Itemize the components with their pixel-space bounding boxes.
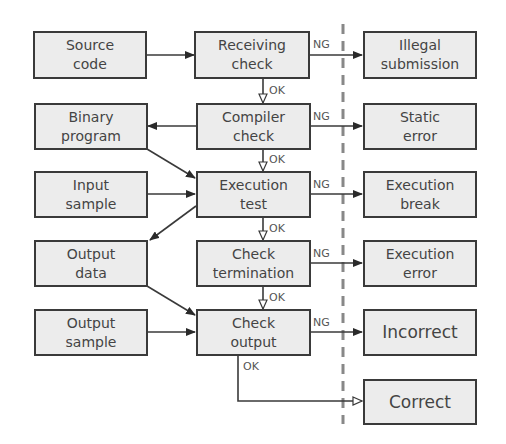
box-label: code (73, 55, 107, 74)
flow-diagram: Source code Binary program Input sample … (0, 0, 506, 444)
box-label: Illegal (399, 36, 441, 55)
ng-label: NG (313, 179, 330, 191)
edge-binary-to-execution (147, 149, 195, 178)
box-label: Check (232, 314, 275, 333)
box-label: Execution (386, 176, 455, 195)
edge-execution-to-output-data (150, 206, 196, 240)
box-label: data (75, 264, 107, 283)
box-execution-error: Execution error (363, 240, 477, 287)
box-check-output: Check output (196, 309, 311, 356)
box-label: error (403, 127, 437, 146)
box-label: Incorrect (382, 323, 457, 342)
box-label: Output (67, 245, 116, 264)
box-label: Input (73, 176, 109, 195)
box-check-termination: Check termination (196, 240, 311, 287)
box-label: error (403, 264, 437, 283)
box-label: sample (66, 333, 117, 352)
box-label: sample (66, 195, 117, 214)
box-label: output (230, 333, 276, 352)
box-correct: Correct (363, 379, 477, 425)
box-illegal-submission: Illegal submission (363, 31, 477, 79)
ok-label: OK (269, 85, 285, 97)
box-label: Compiler (222, 108, 285, 127)
ng-label: NG (313, 317, 330, 329)
ok-label: OK (269, 223, 285, 235)
box-label: Static (400, 108, 440, 127)
box-binary-program: Binary program (34, 103, 148, 150)
ng-label: NG (313, 39, 330, 51)
box-incorrect: Incorrect (363, 309, 477, 356)
box-label: Correct (389, 393, 451, 412)
edge-output-data-to-check-output (147, 286, 195, 315)
box-label: test (240, 195, 267, 214)
box-label: Binary (69, 108, 114, 127)
box-label: termination (213, 264, 294, 283)
ok-label: OK (269, 292, 285, 304)
box-source-code: Source code (33, 31, 147, 79)
box-execution-test: Execution test (196, 171, 311, 218)
box-label: submission (381, 55, 460, 74)
box-label: Receiving (218, 36, 286, 55)
box-label: check (233, 127, 274, 146)
box-output-data: Output data (34, 240, 148, 287)
ng-label: NG (313, 111, 330, 123)
box-label: Execution (219, 176, 288, 195)
box-input-sample: Input sample (34, 171, 148, 218)
box-label: Execution (386, 245, 455, 264)
ok-label: OK (243, 361, 259, 373)
box-execution-break: Execution break (363, 171, 477, 218)
box-label: program (61, 127, 121, 146)
ng-label: NG (313, 248, 330, 260)
box-label: check (232, 55, 273, 74)
box-compiler-check: Compiler check (196, 103, 311, 150)
box-label: Source (66, 36, 114, 55)
box-output-sample: Output sample (34, 309, 148, 356)
ok-label: OK (269, 154, 285, 166)
box-label: Output (67, 314, 116, 333)
box-label: Check (232, 245, 275, 264)
box-receiving-check: Receiving check (194, 31, 310, 79)
box-label: break (400, 195, 440, 214)
box-static-error: Static error (363, 103, 477, 150)
